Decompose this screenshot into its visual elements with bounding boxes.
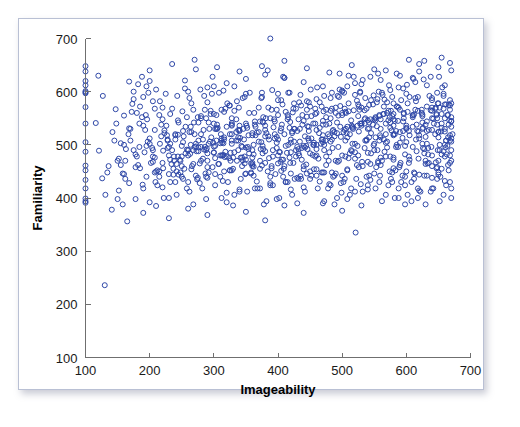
data-point bbox=[129, 109, 134, 114]
data-point bbox=[372, 171, 377, 176]
data-point bbox=[159, 134, 164, 139]
x-tick-label: 200 bbox=[139, 363, 161, 378]
data-point bbox=[138, 104, 143, 109]
data-point bbox=[430, 175, 435, 180]
data-point bbox=[232, 192, 237, 197]
data-point bbox=[195, 115, 200, 120]
data-point bbox=[134, 110, 139, 115]
data-point bbox=[414, 149, 419, 154]
data-point bbox=[292, 101, 297, 106]
data-point bbox=[120, 202, 125, 207]
data-point bbox=[137, 144, 142, 149]
data-point bbox=[388, 88, 393, 93]
data-point bbox=[174, 192, 179, 197]
data-point bbox=[160, 105, 165, 110]
data-point bbox=[152, 127, 157, 132]
data-point bbox=[186, 180, 191, 185]
data-point bbox=[353, 230, 358, 235]
data-point bbox=[339, 190, 344, 195]
y-tick-label: 400 bbox=[56, 191, 78, 206]
data-point bbox=[298, 92, 303, 97]
data-point bbox=[237, 69, 242, 74]
data-point bbox=[96, 148, 101, 153]
data-point bbox=[410, 144, 415, 149]
data-point bbox=[315, 186, 320, 191]
data-point bbox=[329, 90, 334, 95]
data-point bbox=[211, 84, 216, 89]
data-point bbox=[314, 97, 319, 102]
data-point bbox=[205, 85, 210, 90]
data-point bbox=[447, 60, 452, 65]
data-point bbox=[198, 87, 203, 92]
data-point bbox=[113, 107, 118, 112]
data-point bbox=[131, 97, 136, 102]
data-point bbox=[96, 73, 101, 78]
x-tick-label: 600 bbox=[395, 363, 417, 378]
data-point bbox=[157, 174, 162, 179]
data-point bbox=[159, 122, 164, 127]
data-point bbox=[441, 192, 446, 197]
data-point bbox=[383, 68, 388, 73]
data-point bbox=[193, 67, 198, 72]
data-point bbox=[378, 173, 383, 178]
data-point bbox=[383, 192, 388, 197]
data-point bbox=[252, 119, 257, 124]
data-point bbox=[271, 125, 276, 130]
data-point bbox=[122, 113, 127, 118]
data-point bbox=[413, 137, 418, 142]
data-point bbox=[376, 71, 381, 76]
data-point bbox=[202, 93, 207, 98]
data-point bbox=[142, 150, 147, 155]
data-point bbox=[327, 121, 332, 126]
axis-labels-layer: 1002003004005006007001002003004005006007… bbox=[30, 32, 481, 397]
data-point bbox=[224, 124, 229, 129]
data-point bbox=[423, 202, 428, 207]
data-point bbox=[354, 176, 359, 181]
data-point bbox=[123, 158, 128, 163]
data-point bbox=[276, 113, 281, 118]
data-point bbox=[215, 65, 220, 70]
axes-layer bbox=[86, 39, 471, 358]
data-point bbox=[447, 98, 452, 103]
data-point bbox=[258, 158, 263, 163]
data-point bbox=[320, 84, 325, 89]
data-point bbox=[308, 87, 313, 92]
data-point bbox=[345, 84, 350, 89]
data-point bbox=[263, 218, 268, 223]
data-point bbox=[416, 156, 421, 161]
data-point bbox=[102, 283, 107, 288]
data-point bbox=[362, 146, 367, 151]
data-point bbox=[378, 77, 383, 82]
data-point bbox=[281, 74, 286, 79]
data-point bbox=[308, 176, 313, 181]
data-point bbox=[213, 183, 218, 188]
data-point bbox=[180, 109, 185, 114]
data-point bbox=[218, 174, 223, 179]
data-point bbox=[338, 134, 343, 139]
data-point bbox=[287, 155, 292, 160]
data-point bbox=[128, 138, 133, 143]
data-point bbox=[296, 117, 301, 122]
data-point bbox=[417, 62, 422, 67]
data-point bbox=[144, 84, 149, 89]
data-point bbox=[136, 82, 141, 87]
data-point bbox=[197, 181, 202, 186]
data-point bbox=[328, 96, 333, 101]
data-point bbox=[224, 190, 229, 195]
x-tick-label: 100 bbox=[75, 363, 97, 378]
data-point bbox=[186, 89, 191, 94]
data-point bbox=[281, 174, 286, 179]
data-point bbox=[141, 94, 146, 99]
data-point bbox=[376, 89, 381, 94]
data-point bbox=[160, 160, 165, 165]
data-point bbox=[327, 70, 332, 75]
data-point bbox=[295, 201, 300, 206]
data-point bbox=[446, 168, 451, 173]
data-point bbox=[320, 118, 325, 123]
data-point bbox=[353, 156, 358, 161]
data-markers-layer bbox=[83, 36, 455, 288]
data-point bbox=[175, 93, 180, 98]
data-point bbox=[385, 145, 390, 150]
data-point bbox=[100, 93, 105, 98]
data-point bbox=[147, 200, 152, 205]
